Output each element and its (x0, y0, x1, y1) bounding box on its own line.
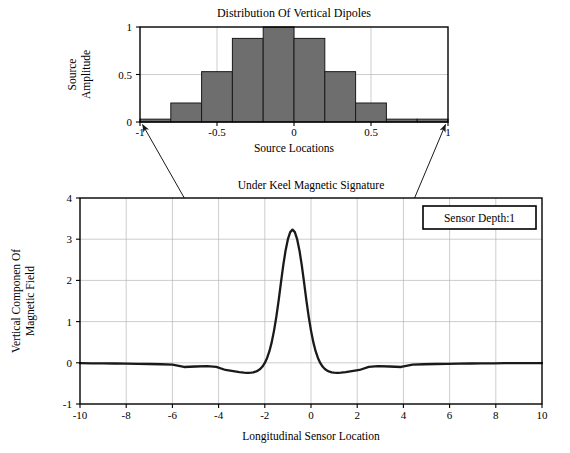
histogram-bar (325, 72, 356, 122)
histogram-xtick-label: 0.5 (364, 126, 378, 138)
histogram-xtick-label: -0.5 (208, 126, 226, 138)
main-ytick-label: 4 (67, 192, 73, 204)
figure-canvas: Distribution Of Vertical Dipoles (0, 0, 570, 453)
histogram-xtick-label: 1 (445, 126, 451, 138)
histogram-bar (232, 38, 263, 122)
main-plot-title: Under Keel Magnetic Signature (238, 179, 385, 192)
histogram-y-axis-label-line2: Amplitude (80, 50, 93, 99)
main-xtick-label: -2 (260, 409, 269, 421)
main-y-axis-label-line2: Magnetic Field (24, 266, 37, 336)
main-xtick-label: 10 (537, 409, 549, 421)
main-xtick-label: -6 (168, 409, 178, 421)
histogram-bar (263, 27, 294, 122)
histogram-x-axis-label: Source Locations (254, 142, 335, 154)
legend-label: Sensor Depth:1 (444, 212, 515, 225)
histogram-bar (294, 38, 325, 122)
main-plot: Under Keel Magnetic Signature (10, 179, 548, 443)
main-xtick-label: 4 (401, 409, 407, 421)
histogram-ytick-label: 0.5 (118, 69, 132, 81)
main-xtick-label: 2 (354, 409, 360, 421)
figure-svg: Distribution Of Vertical Dipoles (0, 0, 570, 453)
histogram-xtick-label: -1 (135, 126, 144, 138)
main-xtick-label: 8 (493, 409, 499, 421)
main-xtick-label: 0 (308, 409, 314, 421)
main-xtick-label: -4 (214, 409, 224, 421)
main-ytick-label: 2 (67, 274, 73, 286)
main-ytick-label: 0 (67, 357, 73, 369)
histogram-bar (356, 103, 387, 122)
main-xtick-label: -8 (122, 409, 132, 421)
legend-box: Sensor Depth:1 (423, 206, 536, 229)
main-ytick-label: 3 (67, 233, 73, 245)
histogram-title: Distribution Of Vertical Dipoles (217, 6, 371, 20)
main-ytick-label: -1 (63, 398, 72, 410)
histogram-ytick-label: 0 (127, 116, 133, 128)
histogram-ytick-label: 1 (127, 21, 133, 33)
histogram-xtick-label: 0 (291, 126, 297, 138)
main-y-axis-label-line1: Vertical Componen Of (10, 249, 23, 353)
main-xtick-label: -10 (73, 409, 88, 421)
main-x-axis-label: Longitudinal Sensor Location (242, 430, 380, 443)
histogram-bar (171, 103, 202, 122)
histogram-y-axis-label-line1: Source (66, 59, 78, 91)
main-xtick-label: 6 (447, 409, 453, 421)
histogram-bar (202, 72, 233, 122)
histogram-plot: Distribution Of Vertical Dipoles (66, 6, 451, 154)
main-ytick-label: 1 (67, 316, 73, 328)
